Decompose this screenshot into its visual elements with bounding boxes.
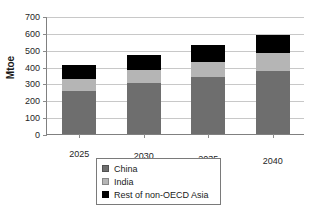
- legend-label-rest-of-non-oecd-asia: Rest of non-OECD Asia: [114, 190, 209, 200]
- y-axis-tick-label: 400: [25, 63, 40, 73]
- legend-item-india: India: [102, 175, 216, 188]
- legend-swatch-india: [102, 178, 109, 185]
- x-axis-tick: [208, 134, 209, 138]
- bar-segment[interactable]: [191, 77, 225, 134]
- legend-swatch-rest-of-non-oecd-asia: [102, 191, 109, 198]
- x-axis-tick: [273, 134, 274, 138]
- legend-item-rest-of-non-oecd-asia: Rest of non-OECD Asia: [102, 188, 216, 201]
- bar-segment[interactable]: [62, 91, 96, 134]
- x-axis-tick-label: 2025: [69, 149, 89, 159]
- bar-segment[interactable]: [256, 53, 290, 71]
- x-axis-tick: [144, 134, 145, 138]
- x-axis-tick-label: 2040: [263, 156, 283, 166]
- legend-item-china: China: [102, 162, 216, 175]
- y-axis-tick-label: 0: [35, 130, 40, 140]
- y-axis-tick: [43, 135, 47, 136]
- bar-segment[interactable]: [191, 62, 225, 77]
- bar-group[interactable]: 2025: [62, 65, 96, 134]
- chart-legend: China India Rest of non-OECD Asia: [96, 158, 221, 205]
- bar-segment[interactable]: [62, 79, 96, 91]
- bar-segment[interactable]: [127, 70, 161, 83]
- bar-segment[interactable]: [256, 35, 290, 53]
- y-axis-title: Mtoe: [5, 44, 16, 92]
- bar-segment[interactable]: [62, 65, 96, 79]
- bar-series-container: 2025203020352040: [47, 17, 304, 134]
- legend-label-india: India: [114, 177, 134, 187]
- bar-segment[interactable]: [127, 83, 161, 134]
- legend-swatch-china: [102, 165, 109, 172]
- bar-segment[interactable]: [127, 55, 161, 70]
- legend-label-china: China: [114, 164, 138, 174]
- stacked-bar-chart: Mtoe 0100200300400500600700 202520302035…: [0, 0, 318, 209]
- bar-group[interactable]: 2040: [256, 35, 290, 134]
- y-axis-tick-label: 700: [25, 12, 40, 22]
- bar-group[interactable]: 2035: [191, 45, 225, 134]
- x-axis-tick: [79, 134, 80, 138]
- y-axis-tick-label: 200: [25, 96, 40, 106]
- y-axis-tick-label: 500: [25, 46, 40, 56]
- bar-segment[interactable]: [256, 71, 290, 134]
- plot-area: 0100200300400500600700 2025203020352040: [46, 17, 304, 135]
- bar-segment[interactable]: [191, 45, 225, 62]
- y-axis-tick-label: 300: [25, 79, 40, 89]
- y-axis-tick-label: 600: [25, 29, 40, 39]
- y-axis-tick-label: 100: [25, 113, 40, 123]
- bar-group[interactable]: 2030: [127, 55, 161, 134]
